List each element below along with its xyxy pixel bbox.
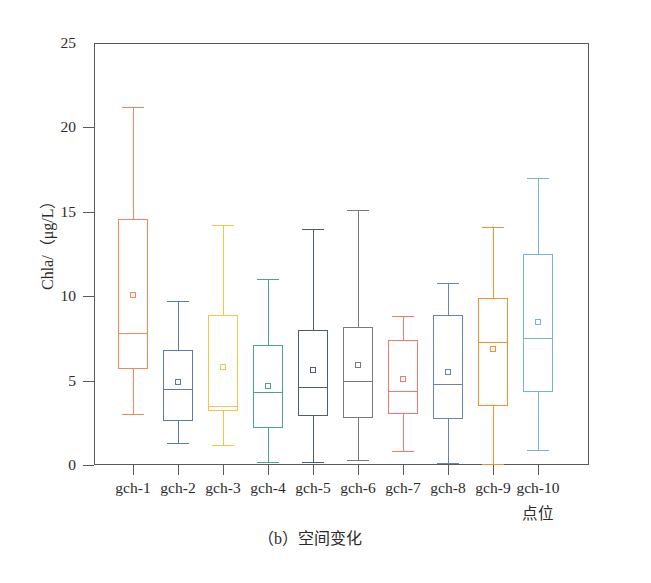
box-iqr bbox=[208, 315, 238, 411]
whisker-cap-lower bbox=[167, 443, 189, 444]
x-tick-mark bbox=[223, 465, 224, 475]
box-iqr bbox=[433, 315, 463, 420]
whisker-cap-upper bbox=[212, 225, 234, 226]
whisker-upper bbox=[358, 210, 359, 326]
mean-marker bbox=[445, 369, 451, 375]
whisker-cap-upper bbox=[482, 227, 504, 228]
whisker-upper bbox=[313, 229, 314, 330]
whisker-cap-lower bbox=[527, 450, 549, 451]
y-tick-mark bbox=[83, 212, 94, 213]
whisker-upper bbox=[133, 107, 134, 218]
whisker-cap-lower bbox=[392, 451, 414, 452]
median-line bbox=[433, 384, 463, 385]
whisker-cap-upper bbox=[527, 178, 549, 179]
x-tick-mark bbox=[493, 465, 494, 475]
whisker-cap-upper bbox=[257, 279, 279, 280]
whisker-cap-upper bbox=[122, 107, 144, 108]
box-plot-figure: Chla/（μg/L） 0510152025 gch-1gch-2gch-3gc… bbox=[0, 0, 651, 583]
whisker-lower bbox=[223, 411, 224, 445]
y-tick-label: 0 bbox=[42, 457, 76, 473]
whisker-lower bbox=[358, 418, 359, 460]
median-line bbox=[388, 391, 418, 392]
whisker-cap-lower bbox=[482, 464, 504, 465]
whisker-cap-lower bbox=[437, 463, 459, 464]
mean-marker bbox=[220, 364, 226, 370]
whisker-upper bbox=[448, 283, 449, 315]
whisker-cap-upper bbox=[167, 301, 189, 302]
mean-marker bbox=[265, 383, 271, 389]
whisker-lower bbox=[493, 406, 494, 464]
box-iqr bbox=[163, 350, 193, 421]
x-tick-mark bbox=[403, 465, 404, 475]
whisker-cap-lower bbox=[212, 445, 234, 446]
x-axis-title: 点位 bbox=[522, 501, 554, 523]
whisker-lower bbox=[178, 421, 179, 443]
median-line bbox=[343, 381, 373, 382]
median-line bbox=[298, 387, 328, 388]
whisker-lower bbox=[133, 369, 134, 415]
whisker-cap-upper bbox=[347, 210, 369, 211]
x-tick-mark bbox=[268, 465, 269, 475]
whisker-lower bbox=[538, 392, 539, 449]
mean-marker bbox=[310, 367, 316, 373]
median-line bbox=[478, 342, 508, 343]
whisker-cap-lower bbox=[257, 462, 279, 463]
whisker-cap-lower bbox=[302, 462, 324, 463]
x-tick-mark bbox=[178, 465, 179, 475]
whisker-lower bbox=[313, 416, 314, 462]
mean-marker bbox=[355, 362, 361, 368]
whisker-lower bbox=[448, 419, 449, 463]
x-tick-label-gch-10: gch-10 bbox=[510, 479, 566, 497]
y-tick-mark bbox=[83, 127, 94, 128]
median-line bbox=[253, 392, 283, 393]
whisker-lower bbox=[268, 428, 269, 462]
y-tick-label: 25 bbox=[42, 35, 76, 51]
whisker-upper bbox=[223, 225, 224, 314]
x-tick-mark bbox=[538, 465, 539, 475]
median-line bbox=[163, 389, 193, 390]
mean-marker bbox=[130, 292, 136, 298]
x-tick-mark bbox=[133, 465, 134, 475]
median-line bbox=[118, 333, 148, 334]
whisker-lower bbox=[403, 414, 404, 451]
y-tick-label: 5 bbox=[42, 373, 76, 389]
whisker-upper bbox=[268, 279, 269, 345]
x-tick-mark bbox=[448, 465, 449, 475]
y-tick-label: 20 bbox=[42, 119, 76, 135]
whisker-upper bbox=[178, 301, 179, 350]
whisker-cap-upper bbox=[302, 229, 324, 230]
median-line bbox=[208, 406, 238, 407]
median-line bbox=[523, 338, 553, 339]
mean-marker bbox=[175, 379, 181, 385]
whisker-upper bbox=[493, 227, 494, 298]
whisker-cap-upper bbox=[392, 316, 414, 317]
whisker-cap-lower bbox=[347, 460, 369, 461]
mean-marker bbox=[535, 319, 541, 325]
whisker-cap-upper bbox=[437, 283, 459, 284]
figure-caption: （b）空间变化 bbox=[258, 525, 362, 549]
mean-marker bbox=[400, 376, 406, 382]
y-tick-label: 10 bbox=[42, 288, 76, 304]
x-tick-mark bbox=[313, 465, 314, 475]
x-tick-mark bbox=[358, 465, 359, 475]
y-tick-mark bbox=[83, 381, 94, 382]
whisker-upper bbox=[403, 316, 404, 340]
y-tick-mark bbox=[83, 296, 94, 297]
y-tick-mark bbox=[83, 465, 94, 466]
box-iqr bbox=[343, 327, 373, 418]
mean-marker bbox=[490, 346, 496, 352]
box-iqr bbox=[478, 298, 508, 406]
y-tick-label: 15 bbox=[42, 204, 76, 220]
whisker-upper bbox=[538, 178, 539, 254]
whisker-cap-lower bbox=[122, 414, 144, 415]
